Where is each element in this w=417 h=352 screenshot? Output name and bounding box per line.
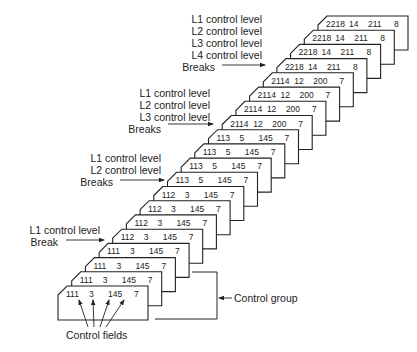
breaks-label: Breaks [182,61,262,73]
control-group-label: Control group [234,292,298,304]
card-field-value: 7 [285,133,290,143]
card-field-value: 200 [300,90,314,100]
card-field-value: 113 [217,133,231,143]
card-field-value: 14 [335,33,345,43]
control-level-label: L3 control level [128,111,210,123]
card-field-value: 8 [394,19,399,29]
card-field-value: 113 [189,161,203,171]
breaks-label: Breaks [80,176,161,188]
breaks-label: Breaks [128,123,210,135]
card-field-value: 111 [93,261,106,271]
control-fields-label: Control fields [66,329,127,341]
card-field-value: 211 [341,47,355,57]
card-field-value: 2114 [230,119,249,129]
card-field-value: 112 [162,190,176,200]
card-field-value: 3 [171,204,176,214]
card-field-value: 7 [134,289,139,299]
card-field-value: 3 [130,246,135,256]
card-field-value: 3 [116,261,121,271]
card-field-value: 145 [204,190,218,200]
card-field-value: 5 [212,161,217,171]
card-field-value: 8 [353,62,358,72]
card-field-value: 7 [271,147,276,157]
card-field-value: 7 [189,232,194,242]
card-field-value: 145 [135,261,149,271]
card-field-value: 111 [107,246,120,256]
control-level-label: L1 control level [128,87,210,99]
card-field-value: 7 [257,161,262,171]
card-field-value: 2218 [299,47,318,57]
card-field-value: 7 [216,204,221,214]
card-field-value: 211 [327,62,341,72]
card-field-value: 8 [380,33,385,43]
card-field-value: 12 [267,104,277,114]
card-field-value: 14 [322,47,332,57]
card-field-value: 7 [244,175,249,185]
card-field-value: 111 [80,275,93,285]
card-field-value: 7 [161,261,166,271]
card-field-value: 200 [286,104,300,114]
break-label-group: L1 control levelL2 control levelL3 contr… [128,87,210,135]
card-field-value: 145 [176,218,190,228]
card-field-value: 7 [298,119,303,129]
card-field-value: 2218 [326,19,345,29]
card-field-value: 112 [148,204,162,214]
card-field-value: 2114 [244,104,263,114]
card-field-value: 5 [199,175,204,185]
card-field-value: 211 [368,19,382,29]
card-field-value: 145 [231,161,245,171]
card-field-value: 12 [281,90,291,100]
card-field-value: 8 [367,47,372,57]
card-field-value: 145 [245,147,259,157]
control-level-label: L1 control level [80,152,161,164]
card-field-value: 12 [253,119,263,129]
control-level-label: L3 control level [182,37,262,49]
card-field-value: 2218 [312,33,331,43]
break-label-group: L1 control levelBreak [29,224,100,248]
card-field-value: 113 [203,147,217,157]
card-field-value: 7 [202,218,207,228]
card-field-value: 14 [308,62,318,72]
card-field-value: 2218 [285,62,304,72]
card-field-value: 3 [103,275,108,285]
card-field-value: 2114 [271,76,290,86]
control-break-diagram: 2218142118221814211822181421182218142118… [0,0,417,352]
card-field-value: 112 [121,232,135,242]
card-field-value: 211 [354,33,368,43]
card-field-value: 7 [175,246,180,256]
card-field-value: 7 [326,90,331,100]
breaks-label: Break [29,236,100,248]
card-field-value: 14 [349,19,359,29]
card-field-value: 145 [190,204,204,214]
card-field-value: 145 [108,289,122,299]
card-field-value: 2114 [258,90,277,100]
card-field-value: 145 [218,175,232,185]
control-level-label: L2 control level [182,25,262,37]
card-field-value: 5 [226,147,231,157]
control-level-label: L1 control level [182,13,262,25]
card-field-value: 7 [339,76,344,86]
card-field-value: 145 [149,246,163,256]
card-field-value: 3 [144,232,149,242]
control-level-label: L4 control level [182,49,262,61]
control-level-label: L2 control level [80,164,161,176]
punch-card: 11131457 [58,286,148,320]
break-label-group: L1 control levelL2 control levelBreaks [80,152,161,188]
card-field-value: 7 [312,104,317,114]
card-field-value: 7 [230,190,235,200]
card-field-value: 111 [66,289,79,299]
control-level-label: L1 control level [29,224,100,236]
card-field-value: 12 [294,76,304,86]
card-field-value: 112 [134,218,148,228]
card-field-value: 3 [185,190,190,200]
control-level-label: L2 control level [128,99,210,111]
card-field-value: 7 [148,275,153,285]
break-label-group: L1 control levelL2 control levelL3 contr… [182,13,262,73]
card-field-value: 145 [122,275,136,285]
card-field-value: 3 [157,218,162,228]
card-field-value: 113 [176,175,190,185]
card-field-value: 200 [313,76,327,86]
card-field-value: 145 [259,133,273,143]
card-field-value: 3 [89,289,94,299]
card-field-value: 145 [163,232,177,242]
